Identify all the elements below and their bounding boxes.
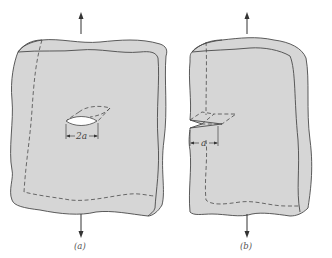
plate-b: [189, 38, 312, 216]
panel-a: 2a (a): [11, 12, 167, 251]
tension-arrow-up-icon: [79, 12, 84, 34]
tension-arrow-down-icon: [245, 214, 250, 238]
crack-length-label-b: a: [201, 138, 206, 148]
caption-b: (b): [240, 241, 252, 251]
tension-arrow-up-icon: [245, 12, 250, 34]
panel-b: a (b): [189, 12, 312, 251]
fracture-diagram: 2a (a): [0, 0, 332, 258]
crack-length-label-a: 2a: [75, 131, 87, 141]
tension-arrow-down-icon: [79, 214, 84, 238]
plate-a: [11, 40, 167, 216]
caption-a: (a): [74, 241, 86, 251]
